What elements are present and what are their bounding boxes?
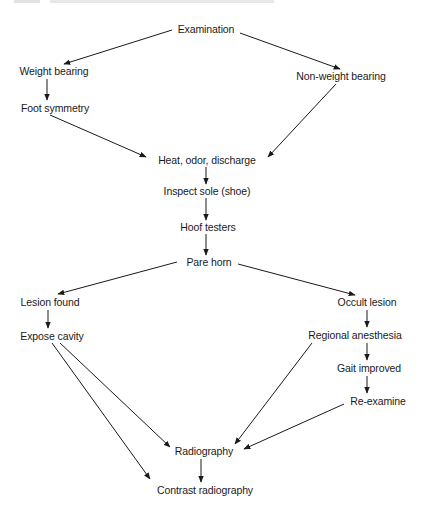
- node-weight-bearing: Weight bearing: [19, 65, 88, 77]
- arrow-pare-horn-to-occult-lesion: [238, 264, 355, 295]
- node-foot-symmetry: Foot symmetry: [21, 102, 89, 114]
- node-heat-odor-discharge: Heat, odor, discharge: [158, 154, 256, 166]
- node-gait-improved: Gait improved: [337, 362, 401, 374]
- node-pare-horn: Pare horn: [186, 256, 231, 268]
- node-expose-cavity: Expose cavity: [20, 330, 83, 342]
- node-examination: Examination: [178, 23, 235, 35]
- arrow-re-examine-to-radiography: [244, 404, 344, 449]
- arrow-examination-to-non-weight-bearing: [240, 33, 340, 69]
- arrow-non-weight-bearing-to-heat-odor-discharge: [268, 84, 336, 157]
- arrow-regional-anesthesia-to-radiography: [235, 343, 312, 444]
- arrow-pare-horn-to-lesion-found: [58, 262, 177, 294]
- node-contrast-radiography: Contrast radiography: [157, 484, 253, 496]
- node-occult-lesion: Occult lesion: [338, 296, 397, 308]
- arrow-expose-cavity-to-radiography: [60, 343, 170, 447]
- arrow-foot-symmetry-to-heat-odor-discharge: [50, 115, 146, 157]
- node-re-examine: Re-examine: [350, 395, 406, 407]
- node-non-weight-bearing: Non-weight bearing: [296, 70, 385, 82]
- node-radiography: Radiography: [175, 445, 233, 457]
- node-hoof-testers: Hoof testers: [180, 221, 235, 233]
- node-inspect-sole: Inspect sole (shoe): [164, 185, 251, 197]
- arrow-examination-to-weight-bearing: [64, 30, 172, 64]
- arrow-expose-cavity-to-contrast-radiography: [52, 343, 150, 479]
- node-regional-anesthesia: Regional anesthesia: [308, 329, 401, 341]
- node-lesion-found: Lesion found: [21, 296, 80, 308]
